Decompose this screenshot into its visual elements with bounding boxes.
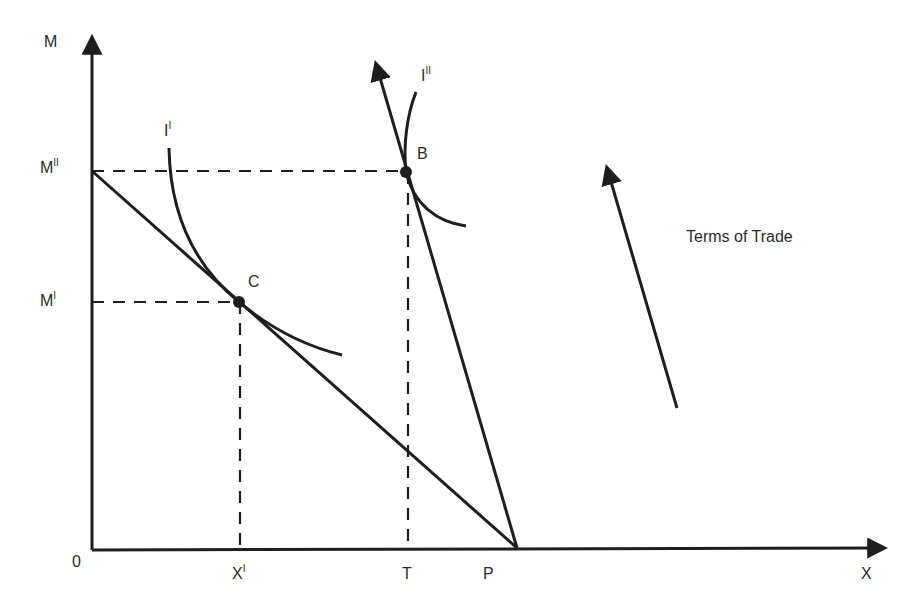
x-axis-label: X <box>861 566 872 582</box>
indifference-curve-i <box>169 148 342 355</box>
curve-label-i: II <box>164 123 171 139</box>
terms-of-trade-arrow <box>607 168 677 408</box>
x-tick-xi: XI <box>232 566 245 582</box>
y-axis-label: M <box>44 34 57 50</box>
point-label-b: B <box>417 146 428 162</box>
point-label-c: C <box>248 274 260 290</box>
y-tick-mii: MII <box>40 160 59 176</box>
point-b <box>400 166 412 178</box>
x-axis <box>92 548 884 550</box>
budget-line <box>92 171 517 548</box>
origin-label: 0 <box>72 554 81 570</box>
trade-diagram <box>0 0 918 608</box>
terms-of-trade-line <box>376 64 517 548</box>
point-c <box>233 296 245 308</box>
curve-label-ii: III <box>421 68 431 84</box>
x-tick-t: T <box>402 566 412 582</box>
terms-of-trade-label: Terms of Trade <box>686 229 793 245</box>
indifference-curve-ii <box>405 92 466 226</box>
y-tick-mi: MI <box>40 293 56 309</box>
x-tick-p: P <box>483 566 494 582</box>
